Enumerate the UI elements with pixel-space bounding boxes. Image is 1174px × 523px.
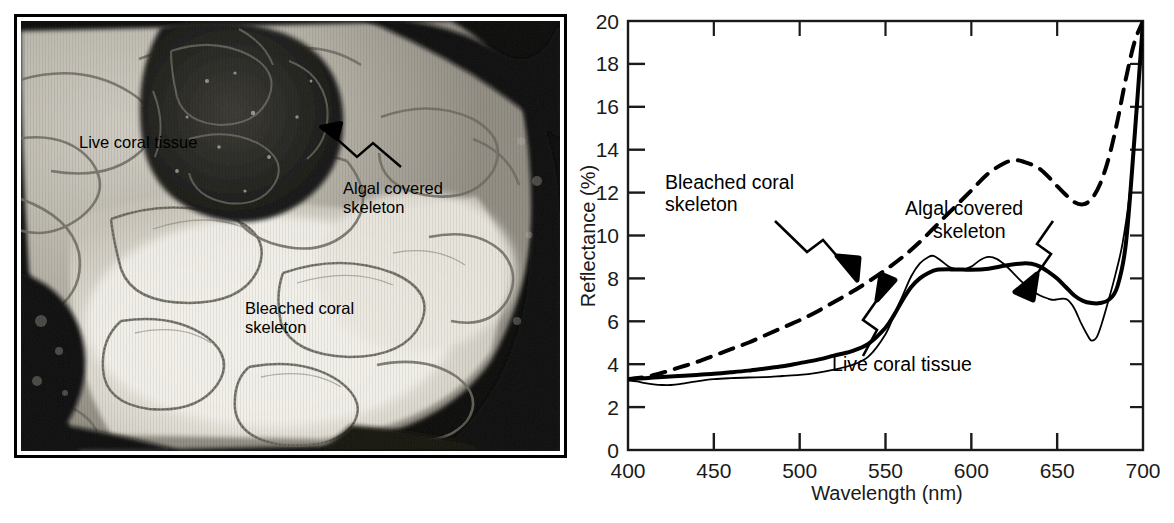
annotation-algal-line2: skeleton xyxy=(933,220,1006,242)
x-tick-label: 550 xyxy=(868,459,903,482)
x-tick-label: 450 xyxy=(696,459,731,482)
figure-root: Live coral tissue Algal covered skeleton… xyxy=(0,0,1174,523)
x-tick-label: 650 xyxy=(1040,459,1075,482)
y-tick-label: 20 xyxy=(596,10,619,33)
coral-photo-svg xyxy=(21,21,560,451)
photo-label-algal-covered-skeleton: Algal covered skeleton xyxy=(343,179,443,217)
y-tick-label: 2 xyxy=(607,396,619,419)
photo-label-bleached-coral-skeleton: Bleached coral skeleton xyxy=(245,299,354,337)
reflectance-chart-panel: 02468101214161820 400450500550600650700 … xyxy=(575,0,1174,523)
annotation-bleached-line1: Bleached coral xyxy=(665,171,794,193)
photograph-image: Live coral tissue Algal covered skeleton… xyxy=(21,21,560,451)
y-tick-label: 14 xyxy=(596,138,620,161)
photo-label-live-coral-tissue: Live coral tissue xyxy=(79,133,197,152)
annotation-algal-line1: Algal covered xyxy=(905,197,1023,219)
x-tick-label: 600 xyxy=(954,459,989,482)
y-tick-label: 8 xyxy=(607,267,619,290)
annotation-bleached-line2: skeleton xyxy=(665,193,738,215)
photograph-mount: Live coral tissue Algal covered skeleton… xyxy=(17,17,564,455)
x-tick-label: 400 xyxy=(610,459,645,482)
x-tick-label: 700 xyxy=(1125,459,1160,482)
y-tick-label: 6 xyxy=(607,310,619,333)
y-tick-label: 18 xyxy=(596,52,619,75)
x-axis-title: Wavelength (nm) xyxy=(811,482,963,504)
y-axis-title: Reflectance (%) xyxy=(577,165,599,307)
y-tick-label: 16 xyxy=(596,95,619,118)
coral-photograph-panel: Live coral tissue Algal covered skeleton… xyxy=(14,14,567,458)
x-tick-label: 500 xyxy=(782,459,817,482)
y-tick-label: 4 xyxy=(607,353,619,376)
y-tick-label: 12 xyxy=(596,181,619,204)
y-tick-label: 10 xyxy=(596,224,619,247)
annotation-live-label: Live coral tissue xyxy=(832,353,972,375)
reflectance-chart: 02468101214161820 400450500550600650700 … xyxy=(575,0,1174,523)
